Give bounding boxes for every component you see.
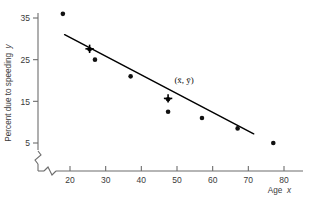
y-tick-label: 35 [21,13,31,23]
data-point [271,141,276,146]
plot-annotations: (x̄, ȳ) [174,75,194,85]
data-point [200,116,205,121]
x-tick-label: 50 [172,175,182,185]
data-point [61,12,66,17]
x-tick-label: 40 [137,175,147,185]
chart-background [0,0,310,200]
x-tick-label: 60 [208,175,218,185]
y-axis-title: Percent due to speeding y [4,43,13,141]
x-tick-label: 70 [244,175,254,185]
chart-canvas: 5152535 20304050607080 (x̄, ȳ) Percent … [0,0,310,200]
x-tick-label: 30 [101,175,111,185]
mean-point-annotation: (x̄, ȳ) [174,75,194,85]
y-tick-label: 5 [25,138,30,148]
y-tick-label: 15 [21,97,31,107]
x-tick-label: 80 [279,175,289,185]
y-tick-label: 25 [21,55,31,65]
data-point [166,109,171,114]
data-point [93,57,98,62]
x-axis-title: Age x [268,186,292,195]
data-point [128,74,133,79]
x-tick-label: 20 [65,175,75,185]
scatter-plot-figure: 5152535 20304050607080 (x̄, ȳ) Percent … [0,0,310,200]
data-point [235,126,240,131]
